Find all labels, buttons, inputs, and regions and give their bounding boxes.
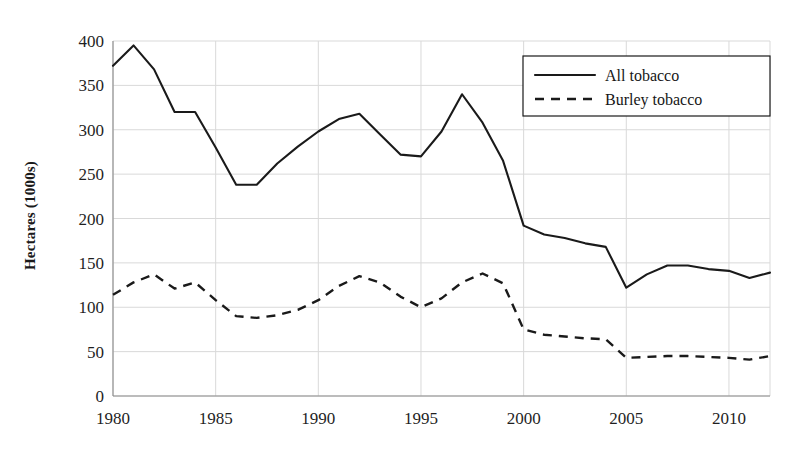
y-tick-label: 50 — [87, 343, 104, 362]
x-tick-label: 1980 — [96, 409, 130, 428]
legend-label: Burley tobacco — [605, 91, 702, 109]
series-line-burley-tobacco — [113, 274, 770, 360]
x-tick-label: 1985 — [199, 409, 233, 428]
chart-figure: Hectares (1000s) 05010015020025030035040… — [0, 0, 806, 452]
x-tick-label: 2010 — [712, 409, 746, 428]
y-tick-label: 350 — [79, 76, 105, 95]
x-tick-label: 2000 — [507, 409, 541, 428]
y-tick-label: 0 — [96, 387, 105, 406]
x-tick-label: 1995 — [404, 409, 438, 428]
y-tick-label: 150 — [79, 254, 105, 273]
y-tick-label: 300 — [79, 121, 105, 140]
chart-legend: All tobaccoBurley tobacco — [523, 56, 770, 116]
y-tick-label: 400 — [79, 32, 105, 51]
x-tick-label: 2005 — [609, 409, 643, 428]
y-tick-label: 100 — [79, 298, 105, 317]
x-tick-label: 1990 — [301, 409, 335, 428]
line-chart-plot: 050100150200250300350400 198019851990199… — [0, 0, 806, 452]
y-tick-label: 200 — [79, 210, 105, 229]
y-tick-labels: 050100150200250300350400 — [79, 32, 105, 406]
legend-label: All tobacco — [605, 67, 679, 84]
x-tick-labels: 1980198519901995200020052010 — [96, 409, 746, 428]
y-tick-label: 250 — [79, 165, 105, 184]
